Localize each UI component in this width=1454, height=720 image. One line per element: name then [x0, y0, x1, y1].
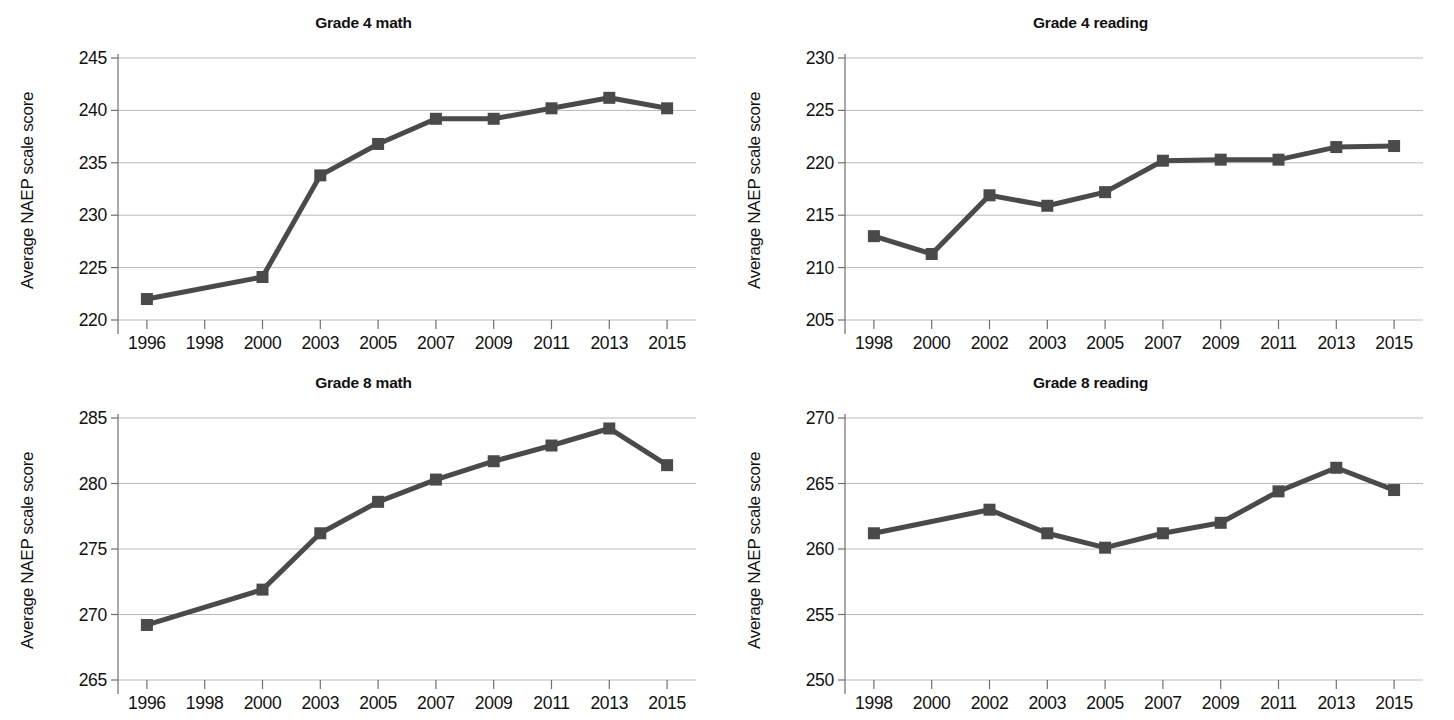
- x-tick-label: 2007: [417, 693, 455, 714]
- x-tick-label: 2005: [359, 333, 397, 354]
- x-tick-label: 2005: [1086, 333, 1124, 354]
- x-tick-label: 2007: [1144, 693, 1182, 714]
- data-point-marker: [661, 459, 673, 471]
- data-point-marker: [141, 619, 153, 631]
- y-tick-label: 250: [806, 670, 834, 691]
- x-tick-label: 2003: [1028, 333, 1066, 354]
- y-tick-label: 210: [806, 257, 834, 278]
- y-tick-label: 230: [79, 205, 107, 226]
- series-line: [147, 98, 667, 299]
- plot-area: [845, 58, 1423, 320]
- y-tick-label: 260: [806, 539, 834, 560]
- y-tick-label: 255: [806, 604, 834, 625]
- data-point-marker: [546, 440, 558, 452]
- x-tick-label: 2011: [533, 333, 569, 354]
- y-tick-label: 225: [79, 257, 107, 278]
- data-point-marker: [661, 102, 673, 114]
- data-point-marker: [314, 527, 326, 539]
- y-tick-label: 230: [806, 48, 834, 69]
- y-tick-label: 245: [79, 48, 107, 69]
- x-tick-label: 2005: [1086, 693, 1124, 714]
- plot-area: [845, 418, 1423, 680]
- data-point-marker: [488, 113, 500, 125]
- x-tick-label: 2011: [1260, 333, 1296, 354]
- x-tick-label: 2011: [1260, 693, 1296, 714]
- data-point-marker: [257, 584, 269, 596]
- data-point-marker: [1157, 527, 1169, 539]
- x-tick-label: 2000: [244, 693, 282, 714]
- y-tick-label: 265: [79, 670, 107, 691]
- plot-svg: [118, 58, 696, 320]
- x-tick-label: 2003: [301, 693, 339, 714]
- data-point-marker: [1215, 517, 1227, 529]
- x-tick-label: 2015: [648, 333, 686, 354]
- data-point-marker: [1330, 462, 1342, 474]
- x-tick-label: 2013: [1317, 693, 1355, 714]
- x-tick-label: 2009: [1202, 333, 1240, 354]
- data-point-marker: [984, 504, 996, 516]
- data-point-marker: [1273, 485, 1285, 497]
- plot-area: [118, 418, 696, 680]
- y-tick-label: 275: [79, 539, 107, 560]
- x-tick-label: 2009: [475, 333, 513, 354]
- plot-area: [118, 58, 696, 320]
- y-tick-label: 265: [806, 473, 834, 494]
- data-point-marker: [603, 92, 615, 104]
- x-tick-label: 2003: [1028, 693, 1066, 714]
- x-tick-label: 2013: [1317, 333, 1355, 354]
- y-tick-label: 220: [79, 310, 107, 331]
- data-point-marker: [1330, 141, 1342, 153]
- panel-grade-4-math: Grade 4 mathAverage NAEP scale score2452…: [0, 0, 727, 360]
- naep-scores-figure: Grade 4 mathAverage NAEP scale score2452…: [0, 0, 1454, 720]
- x-tick-label: 2002: [971, 693, 1009, 714]
- panel-grade-8-reading: Grade 8 readingAverage NAEP scale score2…: [727, 360, 1454, 720]
- x-tick-label: 2015: [1375, 693, 1413, 714]
- data-point-marker: [1388, 140, 1400, 152]
- x-tick-label: 2015: [648, 693, 686, 714]
- y-axis-label: Average NAEP scale score: [745, 91, 765, 288]
- x-tick-label: 2002: [971, 333, 1009, 354]
- panel-grade-4-reading: Grade 4 readingAverage NAEP scale score2…: [727, 0, 1454, 360]
- y-tick-label: 240: [79, 100, 107, 121]
- y-tick-label: 270: [806, 408, 834, 429]
- chart-title: Grade 8 reading: [727, 374, 1454, 392]
- data-point-marker: [488, 455, 500, 467]
- x-tick-label: 2015: [1375, 333, 1413, 354]
- data-point-marker: [1099, 542, 1111, 554]
- data-point-marker: [1099, 186, 1111, 198]
- x-tick-label: 2009: [475, 693, 513, 714]
- y-tick-label: 280: [79, 473, 107, 494]
- data-point-marker: [984, 189, 996, 201]
- x-tick-label: 1998: [186, 693, 224, 714]
- data-point-marker: [141, 293, 153, 305]
- panel-grade-8-math: Grade 8 mathAverage NAEP scale score2852…: [0, 360, 727, 720]
- y-axis-label: Average NAEP scale score: [18, 91, 38, 288]
- data-point-marker: [1215, 154, 1227, 166]
- x-tick-label: 2009: [1202, 693, 1240, 714]
- x-tick-label: 1996: [128, 333, 166, 354]
- data-point-marker: [1273, 154, 1285, 166]
- y-tick-label: 225: [806, 100, 834, 121]
- data-point-marker: [1041, 200, 1053, 212]
- x-tick-label: 2007: [417, 333, 455, 354]
- x-tick-label: 2011: [533, 693, 569, 714]
- y-axis-label: Average NAEP scale score: [18, 451, 38, 648]
- data-point-marker: [430, 474, 442, 486]
- chart-title: Grade 4 reading: [727, 14, 1454, 32]
- x-tick-label: 1996: [128, 693, 166, 714]
- x-tick-label: 1998: [855, 333, 893, 354]
- x-tick-label: 1998: [855, 693, 893, 714]
- data-point-marker: [1388, 484, 1400, 496]
- plot-svg: [845, 418, 1423, 680]
- x-tick-label: 2000: [913, 693, 951, 714]
- data-point-marker: [314, 169, 326, 181]
- x-tick-label: 2000: [244, 333, 282, 354]
- data-point-marker: [372, 496, 384, 508]
- data-point-marker: [257, 271, 269, 283]
- x-tick-label: 2005: [359, 693, 397, 714]
- y-tick-label: 285: [79, 408, 107, 429]
- x-tick-label: 2003: [301, 333, 339, 354]
- plot-svg: [845, 58, 1423, 320]
- data-point-marker: [430, 113, 442, 125]
- x-tick-label: 2000: [913, 333, 951, 354]
